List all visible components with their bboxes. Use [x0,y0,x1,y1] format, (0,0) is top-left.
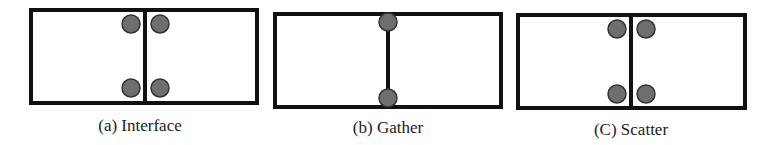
node-circle-icon [608,20,626,38]
node-circle-icon [379,13,397,31]
node-circle-icon [151,15,169,33]
panels-layer [31,10,745,108]
node-circle-icon [122,15,140,33]
node-circle-icon [122,79,140,97]
caption-gather: (b) Gather [353,119,423,136]
panel-gather [275,13,501,107]
node-circle-icon [151,79,169,97]
node-circle-icon [637,85,655,103]
node-circle-icon [637,20,655,38]
caption-scatter: (C) Scatter [594,121,668,138]
node-circle-icon [608,85,626,103]
caption-interface: (a) Interface [98,117,182,134]
node-circle-icon [379,89,397,107]
panel-scatter [518,15,745,108]
panel-interface [31,10,257,103]
